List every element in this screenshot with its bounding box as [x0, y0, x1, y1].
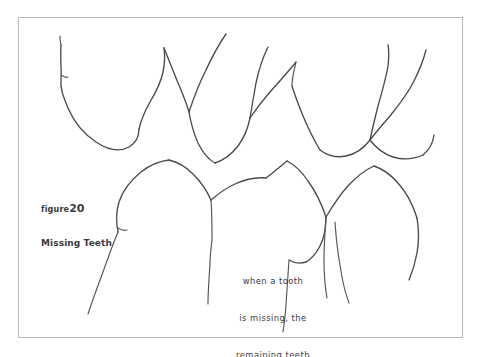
caption-block: when a tooth is missing, the remaining t… [221, 250, 325, 357]
tooth-upper-center-left-flank [189, 34, 226, 112]
tooth-lower-left-crown [169, 160, 211, 200]
tooth-upper-right-crown-base [370, 140, 423, 159]
figure-label-line-1: figure20 [41, 203, 112, 215]
tooth-upper-far-right-edge [423, 135, 434, 155]
tooth-lower-left-left-flank [117, 160, 169, 232]
tooth-upper-left-top-tip [60, 36, 61, 45]
gap-guide-left-lower [208, 264, 210, 304]
tooth-upper-center-lower-left [189, 112, 215, 163]
tooth-lower-center-neck [266, 161, 287, 178]
tooth-upper-third-left-flank [250, 62, 296, 118]
tooth-upper-third-right-descend [292, 86, 320, 150]
tooth-upper-left-outline [61, 45, 139, 150]
tooth-upper-second-left-outline [139, 48, 165, 129]
tooth-lower-right-inner-root-2 [335, 222, 349, 303]
tooth-lower-center-right-flank [287, 161, 326, 217]
tooth-upper-center-right-flank [250, 47, 268, 118]
tooth-lower-center-left-shoulder [211, 178, 266, 200]
tooth-upper-second-left-right-flank [164, 48, 189, 112]
figure-label-number: 20 [69, 202, 84, 215]
tooth-upper-right-right-flank [370, 50, 426, 140]
caption-line: is missing, the [221, 312, 325, 324]
caption-line: remaining teeth [221, 349, 325, 357]
tooth-upper-third-crown-base [320, 140, 370, 157]
tooth-upper-center-crown [215, 118, 250, 163]
tooth-lower-right-crown [374, 166, 417, 218]
tooth-upper-left-notch [61, 75, 68, 77]
tooth-lower-right-left-flank [326, 166, 374, 217]
figure-label-prefix: figure [41, 205, 69, 214]
tooth-lower-center-left-root [211, 200, 212, 240]
tooth-lower-left-notch [118, 228, 127, 230]
screenshot-canvas: figure20 Missing Teeth when a tooth is m… [0, 0, 482, 357]
tooth-lower-right-right-flank [409, 218, 419, 280]
figure-label-title: Missing Teeth [41, 238, 112, 249]
caption-line: when a tooth [221, 275, 325, 287]
gap-guide-left [210, 240, 212, 264]
figure-label: figure20 Missing Teeth [41, 181, 112, 271]
tooth-upper-right-left-flank [370, 45, 389, 140]
